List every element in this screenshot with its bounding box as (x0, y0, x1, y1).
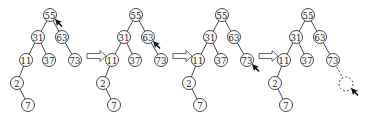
tree-node-73: 73 (155, 54, 168, 67)
node-label: 31 (33, 33, 44, 43)
tree-node-7: 7 (280, 99, 293, 112)
tree-node-63: 63 (228, 31, 241, 44)
tree-node-55: 55 (130, 9, 143, 22)
node-label: 37 (130, 56, 141, 66)
pointer-arrow-icon (351, 88, 359, 96)
tree-node-7: 7 (108, 99, 121, 112)
pointer-arrow-icon (252, 64, 260, 72)
tree-node-63: 63 (314, 31, 327, 44)
tree-node-37: 37 (301, 54, 314, 67)
tree-node-7: 7 (194, 99, 207, 112)
node-label: 37 (44, 56, 55, 66)
node-label: 63 (229, 33, 240, 43)
tree-node-55: 55 (302, 9, 315, 22)
node-label: 31 (291, 33, 302, 43)
node-label: 7 (283, 101, 288, 111)
step-arrow-icon (173, 51, 192, 62)
new-node-placeholder (339, 77, 353, 91)
tree-node-11: 11 (106, 54, 119, 67)
tree-node-37: 37 (129, 54, 142, 67)
tree-node-63: 63 (56, 31, 69, 44)
node-label: 73 (156, 56, 167, 66)
node-label: 73 (242, 56, 253, 66)
bst-insertion-diagram: 5531631137732755316311377327553163113773… (0, 0, 367, 124)
tree-node-63: 63 (142, 31, 155, 44)
node-label: 63 (143, 33, 154, 43)
node-label: 2 (186, 79, 191, 89)
tree-node-73: 73 (69, 54, 82, 67)
node-label: 11 (107, 56, 118, 66)
node-label: 7 (111, 101, 116, 111)
node-label: 55 (45, 11, 56, 21)
tree-step-2: 55316311377327 (97, 9, 168, 112)
node-label: 63 (57, 33, 68, 43)
node-label: 73 (70, 56, 81, 66)
tree-step-1: 55316311377327 (11, 9, 82, 112)
tree-node-31: 31 (204, 31, 217, 44)
node-label: 37 (302, 56, 313, 66)
tree-node-2: 2 (183, 77, 196, 90)
tree-step-4: 55316311377327 (269, 9, 359, 112)
tree-node-11: 11 (192, 54, 205, 67)
node-label: 31 (119, 33, 130, 43)
tree-node-7: 7 (22, 99, 35, 112)
tree-node-2: 2 (97, 77, 110, 90)
tree-node-73: 73 (327, 54, 340, 67)
tree-node-37: 37 (215, 54, 228, 67)
tree-step-3: 55316311377327 (183, 9, 260, 112)
node-label: 37 (216, 56, 227, 66)
tree-node-2: 2 (269, 77, 282, 90)
node-label: 7 (197, 101, 202, 111)
tree-node-31: 31 (32, 31, 45, 44)
node-label: 73 (328, 56, 339, 66)
node-label: 31 (205, 33, 216, 43)
step-arrow-icon (259, 51, 278, 62)
node-label: 11 (21, 56, 32, 66)
node-label: 55 (303, 11, 314, 21)
node-label: 2 (14, 79, 19, 89)
node-label: 63 (315, 33, 326, 43)
tree-node-73: 73 (241, 54, 254, 67)
node-label: 11 (193, 56, 204, 66)
tree-node-11: 11 (20, 54, 33, 67)
tree-node-11: 11 (278, 54, 291, 67)
node-label: 55 (131, 11, 142, 21)
tree-node-2: 2 (11, 77, 24, 90)
node-label: 7 (25, 101, 30, 111)
node-label: 2 (100, 79, 105, 89)
node-label: 11 (279, 56, 290, 66)
tree-node-55: 55 (44, 9, 57, 22)
tree-node-55: 55 (216, 9, 229, 22)
node-label: 55 (217, 11, 228, 21)
tree-node-31: 31 (118, 31, 131, 44)
step-arrow-icon (87, 51, 106, 62)
tree-node-31: 31 (290, 31, 303, 44)
tree-node-37: 37 (43, 54, 56, 67)
node-label: 2 (272, 79, 277, 89)
